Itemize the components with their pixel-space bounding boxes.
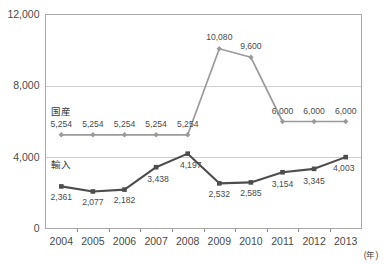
data-point-label: 3,345	[303, 176, 325, 186]
data-point-marker	[343, 155, 348, 160]
series-name-labels: 国産輸入	[51, 106, 71, 171]
data-point-label: 9,600	[240, 41, 262, 51]
y-axis-tick-label: 4,000	[13, 151, 39, 163]
data-point-marker	[217, 181, 222, 186]
x-axis-tick-label: 2011	[271, 235, 294, 247]
data-point-marker	[185, 151, 190, 156]
series-name-import: 輸入	[51, 159, 71, 170]
data-point-marker	[185, 132, 190, 137]
data-point-label: 4,197	[180, 160, 202, 170]
series-name-domestic: 国産	[51, 106, 71, 117]
data-point-marker	[91, 189, 96, 194]
data-point-marker	[59, 184, 64, 189]
data-point-label: 3,438	[147, 174, 169, 184]
data-point-label: 5,254	[82, 119, 104, 129]
data-point-marker	[280, 170, 285, 175]
data-point-label: 2,077	[82, 197, 104, 207]
data-point-label: 2,361	[51, 192, 73, 202]
data-point-marker	[343, 119, 348, 124]
x-axis-tick-label: 2012	[302, 235, 326, 247]
data-point-marker	[217, 46, 222, 51]
x-axis-tick-label: 2004	[50, 235, 74, 247]
x-axis-tick-label: 2006	[113, 235, 137, 247]
data-point-marker	[249, 180, 254, 185]
series-line	[61, 49, 345, 135]
y-axis-tick-label: 0	[34, 222, 40, 234]
data-point-label: 5,254	[145, 119, 167, 129]
data-point-label: 5,254	[114, 119, 136, 129]
line-chart: 04,0008,00012,000 2004200520062007200820…	[0, 0, 384, 264]
data-point-marker	[90, 132, 95, 137]
data-point-label: 6,000	[303, 106, 325, 116]
data-point-label: 4,003	[333, 163, 355, 173]
x-axis-labels: 2004200520062007200820092010201120122013	[50, 235, 358, 247]
x-axis-tick-label: 2007	[144, 235, 168, 247]
x-axis-tick-label: 2009	[208, 235, 232, 247]
data-point-label: 5,254	[51, 119, 73, 129]
data-point-label: 6,000	[272, 106, 294, 116]
x-axis-tick-label: 2008	[176, 235, 200, 247]
x-axis-tickmarks	[78, 229, 331, 233]
data-point-labels: 5,2545,2545,2545,2545,25410,0809,6006,00…	[51, 32, 357, 207]
x-axis-tick-label: 2005	[81, 235, 105, 247]
data-point-marker	[154, 165, 159, 170]
data-point-marker	[122, 187, 127, 192]
y-axis-tick-label: 12,000	[7, 8, 39, 20]
x-axis-unit-label: (年)	[364, 250, 379, 260]
data-point-marker	[59, 132, 64, 137]
data-point-marker	[248, 55, 253, 60]
data-point-marker	[122, 132, 127, 137]
x-axis-tick-label: 2010	[239, 235, 263, 247]
y-axis-tick-label: 8,000	[13, 79, 39, 91]
x-axis-tick-label: 2013	[334, 235, 358, 247]
data-point-label: 2,585	[240, 188, 262, 198]
data-point-marker	[280, 119, 285, 124]
data-point-marker	[153, 132, 158, 137]
data-point-label: 10,080	[206, 32, 233, 42]
data-point-label: 2,532	[209, 189, 231, 199]
data-point-marker	[312, 167, 317, 172]
data-point-label: 6,000	[335, 106, 357, 116]
data-point-marker	[311, 119, 316, 124]
data-point-label: 2,182	[114, 195, 136, 205]
data-point-label: 3,154	[272, 179, 294, 189]
data-point-label: 5,254	[177, 119, 199, 129]
y-axis-labels: 04,0008,00012,000	[7, 8, 39, 234]
chart-container: 04,0008,00012,000 2004200520062007200820…	[0, 0, 384, 264]
